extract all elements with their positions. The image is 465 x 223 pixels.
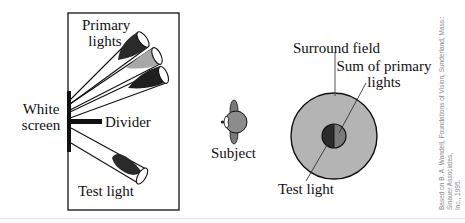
- bottom-divider: [0, 218, 465, 219]
- diagram-graphics: [0, 0, 465, 223]
- white-screen-label-line1: White: [18, 101, 64, 117]
- subject-figure: [221, 100, 247, 144]
- sum-label-line1: Sum of primary: [336, 58, 432, 74]
- surround-field-label: Surround field: [293, 40, 380, 56]
- sum-label-line2: lights: [336, 74, 432, 90]
- primary-lights-label-line1: Primary: [82, 17, 128, 33]
- white-screen-bar: [67, 91, 71, 152]
- white-screen-label-line2: screen: [18, 117, 64, 133]
- credit-line1: Based on B. A. Wandell, Foundations of V…: [438, 10, 454, 210]
- divider-label: Divider: [105, 114, 151, 130]
- primary-lights-label: Primary lights: [82, 17, 128, 49]
- credit-line2: Inc., 1995.: [454, 10, 462, 210]
- sum-of-primary-lights-label: Sum of primary lights: [336, 58, 432, 90]
- field-test-light-label: Test light: [278, 181, 334, 197]
- white-screen-label: White screen: [18, 101, 64, 133]
- primary-lights-label-line2: lights: [82, 33, 128, 49]
- credit-text: Based on B. A. Wandell, Foundations of V…: [438, 10, 462, 210]
- apparatus-test-light-label: Test light: [78, 183, 134, 199]
- subject-label: Subject: [211, 145, 256, 161]
- divider-bar: [71, 119, 102, 124]
- test-light: [71, 128, 150, 186]
